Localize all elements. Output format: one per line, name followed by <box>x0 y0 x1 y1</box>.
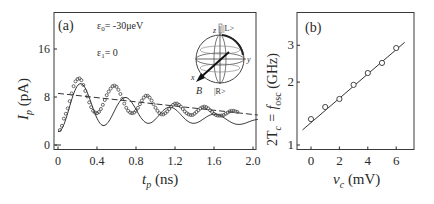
panel-b-y-axis-label: 2Tc = fosc (GHz) <box>265 53 283 146</box>
panel-a-frame <box>54 13 256 150</box>
x-tick-label: 1.2 <box>168 154 183 168</box>
x-tick-label: 0.8 <box>129 154 144 168</box>
b-y-label-unit: (GHz) <box>265 53 281 93</box>
x-tick-label: 4 <box>365 153 372 168</box>
bloch-B-label: B <box>196 85 202 96</box>
data-point <box>62 117 65 120</box>
panel-a-y-ticks: 0816 <box>38 42 61 152</box>
y-label-unit: (pA) <box>15 78 32 110</box>
epsilon0-annotation: ε0= -30μeV <box>97 20 144 33</box>
bloch-R-label: |R> <box>214 87 226 96</box>
panel-b-x-axis-label: vc (mV) <box>333 171 380 190</box>
epsilon1-value: = 0 <box>105 47 118 58</box>
data-point <box>107 90 110 93</box>
data-point <box>394 45 399 50</box>
x-tick-label: 0 <box>55 154 61 168</box>
epsilon0-value: = -30μeV <box>105 20 144 31</box>
y-tick-label: 3 <box>288 37 295 52</box>
b-x-label-unit: (mV) <box>344 171 380 188</box>
data-point <box>72 85 75 88</box>
fit-curve <box>58 84 258 132</box>
data-point <box>308 117 313 122</box>
x-tick-label: 6 <box>393 153 400 168</box>
data-point <box>154 106 157 109</box>
x-tick-label: 1.6 <box>207 154 222 168</box>
data-point <box>150 99 153 102</box>
bloch-L-label: |L> <box>223 24 234 33</box>
data-point <box>80 79 83 82</box>
data-point <box>117 88 120 91</box>
x-tick-label: 2 <box>336 153 343 168</box>
data-point <box>379 60 384 65</box>
x-label-unit: (ns) <box>151 171 178 188</box>
panel-a-label: (a) <box>58 18 74 34</box>
panel-a: 00.40.81.21.62.0 0816 (a) ε0= -30μeV ε1=… <box>15 13 261 191</box>
data-point <box>365 70 370 75</box>
data-point <box>136 106 139 109</box>
y-tick-label: 16 <box>38 42 50 56</box>
panel-a-x-axis-label: tp (ns) <box>142 171 178 190</box>
bloch-y-label: y <box>246 55 251 64</box>
data-point <box>119 93 122 96</box>
panel-a-curves <box>58 84 258 132</box>
data-point <box>138 103 141 106</box>
data-point <box>337 96 342 101</box>
panel-b-y-ticks: 123 <box>288 37 301 152</box>
panel-b-label: (b) <box>305 20 322 36</box>
x-tick-label: 2.0 <box>246 154 261 168</box>
data-point <box>152 103 155 106</box>
y-tick-label: 2 <box>288 74 295 89</box>
b-y-label-eq: = f <box>265 104 280 126</box>
data-point <box>101 103 104 106</box>
panel-b: 0246 123 (b) vc (mV) 2Tc = fosc (GHz) <box>265 13 414 191</box>
data-point <box>351 82 356 87</box>
panel-a-y-axis-label: Ip (pA) <box>15 78 34 121</box>
data-point <box>99 108 102 111</box>
data-point <box>140 99 143 102</box>
data-point <box>64 112 67 115</box>
data-point <box>125 106 128 109</box>
data-point <box>88 101 91 104</box>
epsilon1-annotation: ε1= 0 <box>97 47 118 60</box>
y-tick-label: 1 <box>288 137 295 152</box>
x-tick-label: 0.4 <box>90 154 105 168</box>
data-point <box>323 104 328 109</box>
b-y-label-main: 2T <box>265 130 280 146</box>
b-y-label-sub2: osc <box>272 92 283 106</box>
panel-b-data-points <box>308 45 398 121</box>
bloch-x-label: x <box>190 73 195 82</box>
data-point <box>105 94 108 97</box>
y-tick-label: 0 <box>44 138 50 152</box>
bloch-sphere-icon: z |L> y x B |R> <box>190 24 251 96</box>
x-tick-label: 0 <box>308 153 315 168</box>
y-tick-label: 8 <box>44 90 50 104</box>
data-point <box>123 102 126 105</box>
bloch-z-label: z <box>212 26 217 35</box>
data-point <box>148 96 151 99</box>
figure: 00.40.81.21.62.0 0816 (a) ε0= -30μeV ε1=… <box>0 0 434 204</box>
